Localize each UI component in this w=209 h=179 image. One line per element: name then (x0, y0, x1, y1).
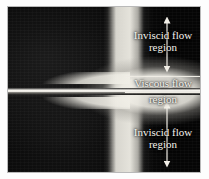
flow-photograph: Inviscid flow region Viscous flow region… (8, 7, 200, 172)
lower-plate-edge-glow (10, 97, 130, 109)
lower-shear-layer (8, 95, 200, 172)
flow-visualization-figure: Inviscid flow region Viscous flow region… (0, 0, 209, 179)
upper-shear-layer (8, 7, 200, 88)
upper-plate-edge-glow (10, 72, 130, 84)
